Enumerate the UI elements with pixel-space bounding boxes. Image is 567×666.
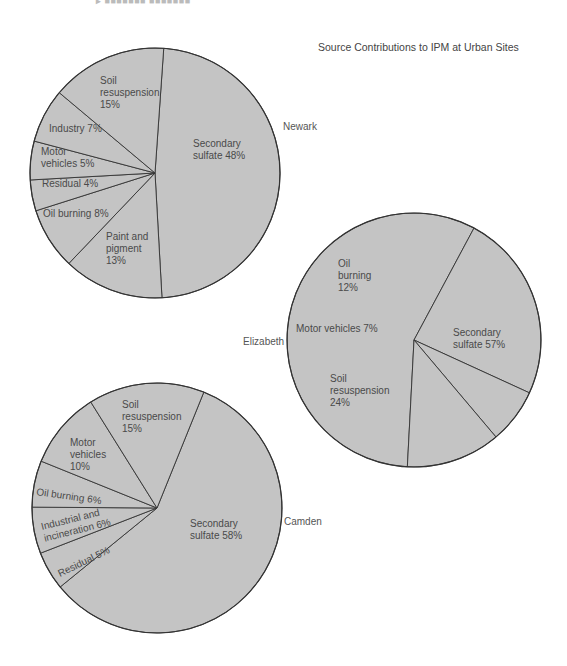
slice-label: Secondarysulfate 57% — [453, 327, 505, 350]
slice-label: Industry 7% — [49, 123, 102, 134]
slice-label: Secondarysulfate 48% — [193, 138, 245, 161]
slice-label: Residual 4% — [42, 178, 98, 189]
pie-slice-secondary-sulfate — [155, 48, 280, 298]
pie-elizabeth: Secondarysulfate 57%Soilresuspension24%M… — [243, 213, 541, 467]
site-label-camden: Camden — [284, 516, 322, 527]
site-label-elizabeth: Elizabeth — [243, 336, 284, 347]
site-label-newark: Newark — [283, 121, 318, 132]
slice-label: Oil burning 8% — [43, 208, 109, 219]
pie-newark: Secondarysulfate 48%Paint andpigment13%O… — [30, 48, 318, 298]
pie-camden: Secondarysulfate 58%Residual 5%Industria… — [32, 383, 322, 633]
pie-charts: Secondarysulfate 48%Paint andpigment13%O… — [0, 0, 567, 666]
slice-label: Motor vehicles 7% — [296, 323, 378, 334]
slice-label: Secondarysulfate 58% — [190, 518, 242, 541]
